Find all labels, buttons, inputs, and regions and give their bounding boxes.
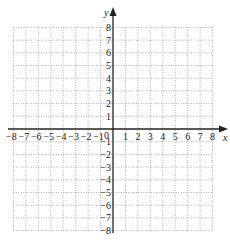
y-tick-label: 5 bbox=[106, 60, 111, 71]
y-tick-label: 1 bbox=[106, 111, 111, 122]
x-tick-label: −2 bbox=[81, 131, 92, 142]
y-tick-label: −8 bbox=[100, 225, 111, 236]
x-tick-label: 7 bbox=[198, 131, 203, 142]
x-tick-label: −3 bbox=[68, 131, 79, 142]
x-tick-label: 3 bbox=[148, 131, 153, 142]
y-tick-label: 3 bbox=[106, 85, 111, 96]
x-tick-label: −4 bbox=[56, 131, 67, 142]
y-axis-label: y bbox=[103, 7, 109, 18]
x-axis-label: x bbox=[222, 132, 228, 143]
origin-label: 0 bbox=[104, 130, 109, 141]
axes bbox=[8, 7, 228, 233]
y-tick-label: −6 bbox=[100, 200, 111, 211]
x-tick-label: 2 bbox=[135, 131, 140, 142]
x-tick-label: 8 bbox=[210, 131, 215, 142]
x-tick-label: −7 bbox=[19, 131, 30, 142]
y-tick-label: 4 bbox=[106, 73, 111, 84]
x-tick-label: 1 bbox=[123, 131, 128, 142]
y-tick-label: 7 bbox=[106, 35, 111, 46]
x-tick-label: −8 bbox=[6, 131, 17, 142]
x-tick-label: 6 bbox=[185, 131, 190, 142]
y-tick-label: −7 bbox=[100, 212, 111, 223]
coordinate-plane: −8−7−6−5−4−3−2−112345678−8−7−6−5−4−3−2−1… bbox=[0, 0, 230, 240]
y-tick-label: 6 bbox=[106, 47, 111, 58]
y-tick-label: −3 bbox=[100, 162, 111, 173]
x-tick-label: 5 bbox=[173, 131, 178, 142]
y-tick-label: 2 bbox=[106, 98, 111, 109]
y-tick-label: −2 bbox=[100, 149, 111, 160]
x-tick-label: 4 bbox=[160, 131, 165, 142]
x-tick-label: −6 bbox=[31, 131, 42, 142]
x-tick-label: −5 bbox=[43, 131, 54, 142]
y-tick-label: −4 bbox=[100, 174, 111, 185]
y-tick-label: −5 bbox=[100, 187, 111, 198]
y-tick-label: 8 bbox=[106, 22, 111, 33]
y-axis-arrow-icon bbox=[110, 7, 117, 16]
